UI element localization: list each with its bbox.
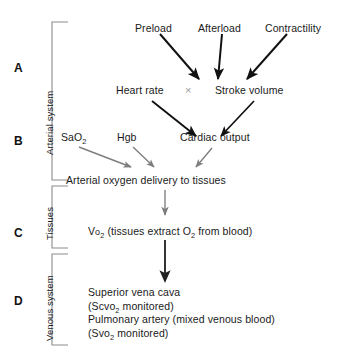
side-label-tissues: Tissues xyxy=(44,207,55,240)
side-label-venous-system: Venous system xyxy=(44,275,55,341)
node-afterload: Afterload xyxy=(198,22,241,35)
node-vo2: Vo2 (tissues extract O2 from blood) xyxy=(88,225,252,239)
arrow-preload-to-stroke-volume xyxy=(160,34,199,79)
multiply-symbol: × xyxy=(185,84,191,96)
arrow-cardiac-output-to-arterial-delivery xyxy=(196,148,212,167)
node-sao2-subscript: 2 xyxy=(82,137,86,146)
side-label-arterial-system: Arterial system xyxy=(44,91,55,155)
node-venous-sampling-sites: Superior vena cava (Scvo2 monitored) Pul… xyxy=(88,286,275,341)
node-scvo2-post: monitored) xyxy=(120,300,174,312)
node-stroke-volume: Stroke volume xyxy=(215,84,283,97)
node-superior-vena-cava: Superior vena cava xyxy=(88,286,275,300)
section-letter-c: C xyxy=(14,226,23,240)
node-contractility: Contractility xyxy=(265,22,321,35)
node-preload: Preload xyxy=(135,22,172,35)
node-scvo2-pre: (Scvo xyxy=(88,300,115,312)
node-scvo2-monitored: (Scvo2 monitored) xyxy=(88,300,275,314)
section-letter-a: A xyxy=(14,61,23,75)
node-svo2-pre: (Svo xyxy=(88,327,110,339)
node-pulmonary-artery: Pulmonary artery (mixed venous blood) xyxy=(88,313,275,327)
node-cardiac-output: Cardiac output xyxy=(180,131,250,144)
arrow-hgb-to-arterial-delivery xyxy=(133,147,154,167)
node-arterial-oxygen-delivery: Arterial oxygen delivery to tissues xyxy=(66,174,226,187)
arrow-afterload-to-stroke-volume xyxy=(218,34,222,79)
node-svo2-post: monitored) xyxy=(114,327,168,339)
node-hgb: Hgb xyxy=(117,131,137,144)
arrow-sao2-to-arterial-delivery xyxy=(79,147,131,167)
section-letter-d: D xyxy=(14,294,23,308)
node-sao2-text: SaO xyxy=(61,131,82,143)
diagram-container: A B C D Arterial system Tissues Venous s… xyxy=(0,0,342,357)
section-letter-b: B xyxy=(14,134,23,148)
arrow-contractility-to-stroke-volume xyxy=(247,34,287,79)
node-vo2-rest-a: (tissues extract O xyxy=(104,225,191,237)
node-vo2-rest-b: from blood) xyxy=(195,225,252,237)
node-heart-rate: Heart rate xyxy=(116,84,164,97)
node-svo2-monitored: (Svo2 monitored) xyxy=(88,327,275,341)
node-sao2: SaO2 xyxy=(61,131,87,144)
